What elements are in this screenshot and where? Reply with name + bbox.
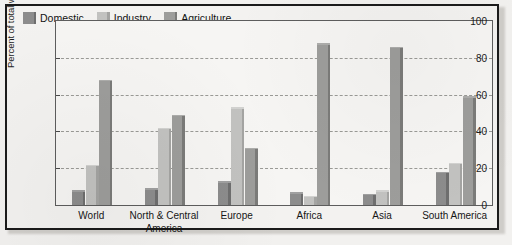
bar-face (390, 47, 401, 205)
bar-side-shade (473, 96, 476, 205)
bar-agriculture[interactable] (172, 115, 185, 205)
bar-side-shade (182, 115, 185, 205)
bar-face (463, 96, 474, 205)
y-tick-label: 40 (457, 126, 487, 137)
bar-face (86, 165, 97, 205)
bar-face (172, 115, 183, 205)
bar-side-shade (328, 43, 331, 205)
legend-swatch-icon (23, 12, 36, 24)
bar-domestic[interactable] (436, 172, 449, 205)
bar-agriculture[interactable] (463, 96, 476, 205)
bar-industry[interactable] (231, 107, 244, 205)
bar-group (274, 21, 347, 205)
chart-outer-frame: Domestic Industry Agriculture Percent of… (5, 4, 499, 230)
bar-face (363, 194, 374, 205)
bar-domestic[interactable] (363, 194, 376, 205)
bar-face (99, 80, 110, 205)
bar-top-cap (72, 190, 85, 192)
plot-area (56, 21, 492, 205)
y-tick-label: 20 (457, 163, 487, 174)
bar-industry[interactable] (158, 128, 171, 205)
y-axis-title: Percent of total withdrawals (5, 0, 16, 68)
y-tick-label: 100 (457, 16, 487, 27)
bar-top-cap (158, 128, 171, 130)
bar-face (376, 190, 387, 205)
bar-side-shade (255, 148, 258, 205)
bar-domestic[interactable] (72, 190, 85, 205)
bar-top-cap (245, 148, 258, 150)
scanned-page: Domestic Industry Agriculture Percent of… (0, 0, 512, 245)
bar-group (129, 21, 202, 205)
bar-face (72, 190, 83, 205)
bar-top-cap (218, 181, 231, 183)
bar-face (218, 181, 229, 205)
bar-face (158, 128, 169, 205)
bar-top-cap (376, 190, 389, 192)
bar-agriculture[interactable] (245, 148, 258, 205)
y-tick-label: 80 (457, 52, 487, 63)
bar-top-cap (231, 107, 244, 109)
bar-side-shade (110, 80, 113, 205)
bar-group (56, 21, 129, 205)
bar-agriculture[interactable] (99, 80, 112, 205)
bar-agriculture[interactable] (390, 47, 403, 205)
bar-domestic[interactable] (290, 192, 303, 205)
bar-group (201, 21, 274, 205)
x-tick-label: South America (410, 210, 499, 223)
bar-top-cap (390, 47, 403, 49)
bar-top-cap (363, 194, 376, 196)
bar-face (145, 188, 156, 205)
bar-industry[interactable] (304, 196, 317, 205)
bar-side-shade (400, 47, 403, 205)
plot-frame: 020406080100 (55, 20, 493, 206)
bar-group (419, 21, 492, 205)
bar-top-cap (99, 80, 112, 82)
bar-domestic[interactable] (145, 188, 158, 205)
bar-industry[interactable] (86, 165, 99, 205)
y-tick-label: 0 (457, 200, 487, 211)
bar-agriculture[interactable] (317, 43, 330, 205)
bar-top-cap (172, 115, 185, 117)
bar-top-cap (290, 192, 303, 194)
bar-top-cap (436, 172, 449, 174)
y-tick-label: 60 (457, 89, 487, 100)
bar-top-cap (145, 188, 158, 190)
bar-face (231, 107, 242, 205)
bar-top-cap (317, 43, 330, 45)
bar-face (245, 148, 256, 205)
bar-group (347, 21, 420, 205)
bar-face (317, 43, 328, 205)
bar-domestic[interactable] (218, 181, 231, 205)
bar-face (436, 172, 447, 205)
bar-top-cap (86, 165, 99, 167)
bar-top-cap (304, 196, 317, 198)
bar-face (290, 192, 301, 205)
bar-industry[interactable] (376, 190, 389, 205)
